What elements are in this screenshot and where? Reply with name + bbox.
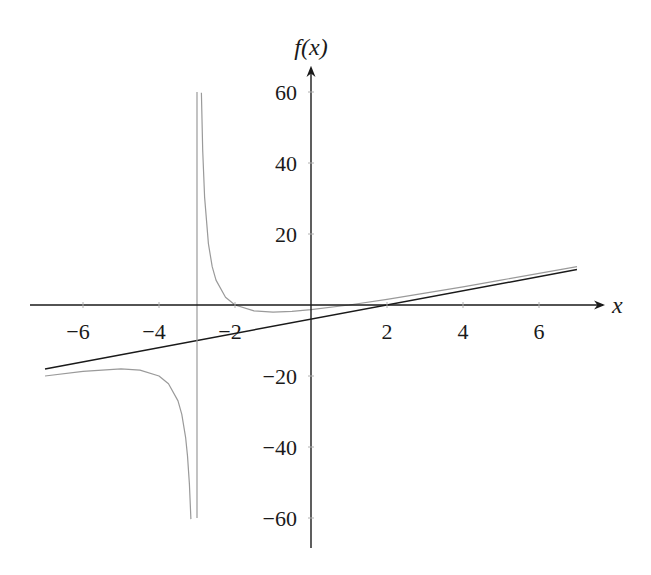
x-tick-label: −2 — [218, 319, 241, 344]
y-tick-label: 20 — [275, 222, 297, 247]
x-axis-label: x — [611, 292, 623, 318]
y-tick-label: −20 — [263, 364, 297, 389]
x-tick-label: −6 — [66, 319, 89, 344]
function-plot: −6−4−2246 604020−20−40−60 x f(x) — [0, 0, 651, 575]
series-0-branch-1 — [201, 93, 577, 312]
y-tick-label: 60 — [275, 80, 297, 105]
series-0-branch-0 — [45, 369, 191, 519]
y-axis-label: f(x) — [294, 34, 327, 60]
y-tick-label: −40 — [263, 435, 297, 460]
x-tick-label: 2 — [382, 319, 393, 344]
x-tick-label: −4 — [142, 319, 165, 344]
y-tick-label: −60 — [263, 506, 297, 531]
x-axis-ticks: −6−4−2246 — [66, 302, 544, 344]
x-tick-label: 6 — [534, 319, 545, 344]
x-tick-label: 4 — [458, 319, 469, 344]
y-tick-label: 40 — [275, 151, 297, 176]
